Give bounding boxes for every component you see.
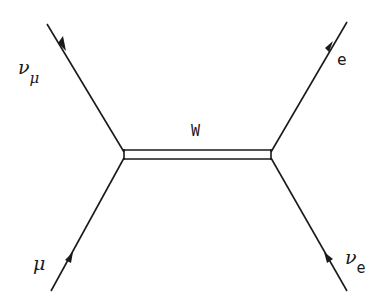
electron-label: e [337, 52, 347, 68]
w-propagator [123, 149, 271, 160]
diagram-lines [0, 0, 385, 307]
electron-line [271, 22, 347, 152]
nu-e-subscript: e [357, 259, 366, 277]
nu-e-symbol: ν [345, 246, 357, 268]
nu-mu-symbol: ν [18, 56, 30, 78]
nu-e-line [271, 158, 347, 291]
nu-mu-label: νμ [18, 58, 39, 77]
nu-mu-line [47, 24, 124, 152]
arrow-icon [65, 252, 73, 263]
arrow-icon [324, 252, 333, 263]
nu-mu-subscript: μ [30, 69, 40, 87]
muon-label: μ [33, 254, 45, 273]
feynman-diagram: W νμ e μ νe [0, 0, 385, 307]
nu-e-label: νe [345, 248, 366, 267]
w-label: W [191, 124, 200, 139]
muon-line [51, 158, 124, 291]
